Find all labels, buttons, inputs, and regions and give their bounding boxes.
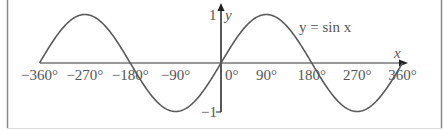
y-axis-arrow-icon bbox=[218, 3, 225, 11]
curve-label: y = sin x bbox=[299, 19, 352, 35]
y-tick-label-1: 1 bbox=[209, 7, 217, 23]
x-tick-label: −180° bbox=[112, 67, 149, 83]
x-tick-label: 0° bbox=[225, 67, 239, 83]
x-tick-label: −360° bbox=[21, 67, 58, 83]
y-tick-label-minus-1: −1 bbox=[201, 104, 217, 120]
x-tick-labels: −360°−270°−180°−90°0°90°180°270°360° bbox=[21, 67, 417, 83]
x-tick-label: 180° bbox=[298, 67, 327, 83]
x-tick-label: −270° bbox=[66, 67, 103, 83]
x-tick-label: 360° bbox=[388, 67, 417, 83]
y-axis-label: y bbox=[223, 7, 232, 23]
sine-chart: −360°−270°−180°−90°0°90°180°270°360° 1 −… bbox=[0, 0, 443, 131]
x-axis-label: x bbox=[393, 45, 401, 61]
x-tick-label: 90° bbox=[256, 67, 277, 83]
sine-graph-figure: −360°−270°−180°−90°0°90°180°270°360° 1 −… bbox=[0, 0, 443, 131]
x-tick-label: 270° bbox=[343, 67, 372, 83]
x-tick-label: −90° bbox=[161, 67, 190, 83]
